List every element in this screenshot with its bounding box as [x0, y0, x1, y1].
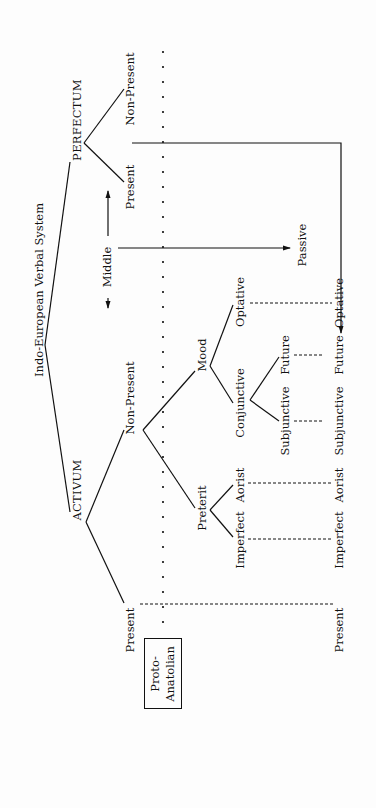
future-label: Future	[280, 335, 292, 375]
optative-label: Optative	[235, 277, 247, 327]
conjunctive-label: Conjunctive	[235, 368, 247, 438]
aorist-label: Aorist	[235, 468, 247, 503]
outcome-imperfect: Imperfect	[334, 511, 346, 568]
activum-label: ACTIVUM	[72, 459, 84, 520]
outcome-optative: Optative	[334, 278, 346, 328]
proto-anatolian-line1: Proto-	[148, 646, 163, 702]
outcome-subjunctive: Subjunctive	[334, 386, 346, 455]
imperfect-label: Imperfect	[235, 511, 247, 568]
proto-anatolian-box: Proto- Anatolian	[144, 638, 182, 709]
mood-label: Mood	[197, 339, 209, 372]
passive-label: Passive	[297, 224, 309, 267]
proto-anatolian-line2: Anatolian	[163, 646, 178, 702]
perfectum-present-label: Present	[125, 165, 137, 210]
middle-label: Middle	[102, 247, 114, 288]
activum-non-present-label: Non-Present	[125, 361, 137, 434]
subjunctive-label: Subjunctive	[280, 386, 292, 455]
activum-present-label: Present	[125, 608, 137, 653]
title-label: Indo-European Verbal System	[34, 203, 46, 377]
preterit-label: Preterit	[197, 485, 209, 530]
outcome-present: Present	[334, 608, 346, 653]
perfectum-label: PERFECTUM	[72, 79, 84, 161]
outcome-aorist: Aorist	[334, 468, 346, 503]
outcome-future: Future	[334, 335, 346, 375]
diagram-lines	[0, 0, 376, 808]
perfectum-non-present-label: Non-Present	[125, 52, 137, 125]
